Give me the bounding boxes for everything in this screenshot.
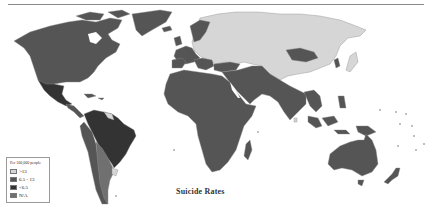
region-southeast-asia bbox=[304, 90, 322, 112]
legend-label-na: N/A bbox=[19, 193, 28, 198]
region-iceland bbox=[162, 26, 172, 32]
region-italy-balkans bbox=[194, 58, 214, 70]
region-central-america bbox=[66, 104, 84, 118]
pacific-islands bbox=[115, 109, 425, 197]
legend-item-na: N/A bbox=[10, 191, 46, 199]
legend-title: Per 100,000 people bbox=[10, 160, 46, 165]
region-caribbean bbox=[84, 94, 104, 100]
region-greenland bbox=[132, 10, 172, 36]
region-uk bbox=[174, 36, 182, 46]
region-philippines bbox=[338, 96, 346, 108]
map-title: Suicide Rates bbox=[176, 187, 225, 196]
legend-swatch-high bbox=[10, 169, 17, 174]
world-map bbox=[0, 0, 436, 212]
region-madagascar bbox=[244, 140, 252, 160]
legend-item-low: <6.5 bbox=[10, 183, 46, 191]
region-tasmania bbox=[358, 180, 364, 186]
region-arctic-islands bbox=[76, 10, 130, 20]
region-north-america bbox=[14, 18, 122, 90]
region-new-zealand bbox=[384, 168, 400, 184]
legend-item-high: >13 bbox=[10, 167, 46, 175]
region-indonesia bbox=[308, 116, 350, 134]
legend-label-low: <6.5 bbox=[19, 185, 28, 190]
region-korea bbox=[334, 58, 340, 68]
legend-swatch-low bbox=[10, 185, 17, 190]
map-legend: Per 100,000 people >13 6.5 - 13 <6.5 N/A bbox=[6, 157, 50, 203]
region-sri-lanka bbox=[294, 118, 297, 122]
legend-item-medium: 6.5 - 13 bbox=[10, 175, 46, 183]
legend-swatch-medium bbox=[10, 177, 17, 182]
legend-label-medium: 6.5 - 13 bbox=[19, 177, 34, 182]
legend-label-high: >13 bbox=[19, 169, 27, 174]
legend-swatch-na bbox=[10, 193, 17, 198]
region-uruguay bbox=[112, 168, 118, 176]
region-japan bbox=[346, 52, 358, 72]
region-australia bbox=[328, 134, 378, 176]
